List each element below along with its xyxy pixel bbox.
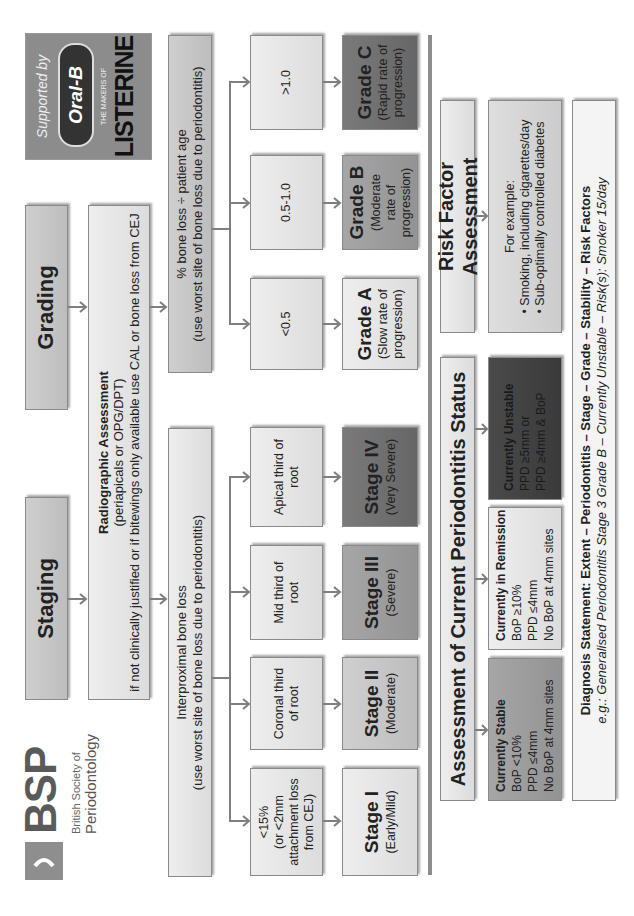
arrow-down-icon [475,209,489,223]
periodontitis-classification-diagram: BSP British Society of Periodontology Su… [0,0,634,916]
arrow-down-icon [323,814,342,828]
radiographic-assessment-box: Radiographic Assessment (periapicals or … [88,205,150,700]
connector-line [212,677,230,679]
arrow-down-icon [323,317,342,331]
arrow-down-icon [229,75,251,89]
bsp-logo: BSP British Society of Periodontology [22,730,104,880]
bsp-acronym: BSP [16,747,66,834]
arrow-down-icon [475,422,489,436]
interproximal-bone-loss-box: Interproximal bone loss (use worst site … [168,428,212,877]
currently-unstable-box: Currently Unstable PPD ≥5mm or PPD ≥4mm … [488,357,562,500]
arrow-down-icon [68,301,88,313]
oralb-logo: Oral-B [58,43,94,147]
supported-by-text: Supported by [34,34,50,159]
connector-line [212,228,230,230]
connector-line [229,476,231,822]
stage3-criteria-box: Mid third of root [250,545,323,640]
grade-b-criteria-box: 0.5-1.0 [250,155,323,250]
arrow-down-icon [323,585,342,599]
risk-factors-box: For example: • Smoking, including cigare… [488,100,562,333]
listerine-tag: THE MAKERS OF [100,34,107,159]
arrow-down-icon [229,814,251,828]
stage4-criteria-box: Apical third of root [250,427,323,527]
grade-b-box: Grade B (Moderate rate of progression) [342,155,418,250]
current-status-header: Assessment of Current Periodontitis Stat… [440,357,475,801]
section-divider [428,35,432,875]
arrow-down-icon [229,585,251,599]
arrow-down-icon [475,572,489,586]
grade-a-box: Grade A (Slow rate of progression) [342,278,418,370]
grade-a-criteria-box: <0.5 [250,278,323,370]
diagnosis-statement-box: Diagnosis Statement: Extent – Periodonti… [572,100,616,801]
risk-item: • Smoking, including cigarettes/day [518,119,533,313]
arrow-down-icon [229,317,251,331]
stage3-box: Stage III (Severe) [342,545,418,640]
arrow-down-icon [229,196,251,210]
arrow-down-icon [323,75,342,89]
currently-stable-box: Currently Stable BoP <10% PPD ≤4mm No Bo… [488,658,562,801]
arrow-down-icon [150,593,168,605]
stage1-box: Stage I (Early/Mild) [342,768,418,876]
stage4-box: Stage IV (Very Severe) [342,427,418,527]
stage2-box: Stage II (Moderate) [342,657,418,750]
arrow-down-icon [323,470,342,484]
arrow-down-icon [229,697,251,711]
arrow-down-icon [323,697,342,711]
arrow-down-icon [229,470,251,484]
arrow-down-icon [150,301,168,313]
risk-factor-header: Risk Factor Assessment [440,100,475,333]
staging-header: Staging [25,497,68,700]
risk-item: • Sub-optimally controlled diabetes [533,119,548,313]
arrow-down-icon [68,593,88,605]
listerine-logo: LISTERINE [110,34,139,159]
bsp-line1: British Society of [70,752,82,834]
stage1-criteria-box: <15% (or <2mm attachment loss from CEJ) [250,768,323,876]
currently-in-remission-box: Currently in Remission BoP ≥10% PPD ≤4mm… [488,507,562,650]
grade-c-box: Grade C (Rapid rate of progression) [342,35,418,130]
sponsor-logo: Supported by Oral-B THE MAKERS OF LISTER… [25,33,152,160]
grade-c-criteria-box: >1.0 [250,35,323,130]
arrow-down-icon [323,196,342,210]
grading-header: Grading [25,205,68,410]
bsp-line2: Periodontology [82,734,99,834]
stage2-criteria-box: Coronal third of root [250,657,323,750]
bone-loss-age-ratio-box: % bone loss ÷ patient age (use worst sit… [168,35,212,373]
arrow-down-icon [475,723,489,737]
bsp-emblem-icon [25,842,63,880]
